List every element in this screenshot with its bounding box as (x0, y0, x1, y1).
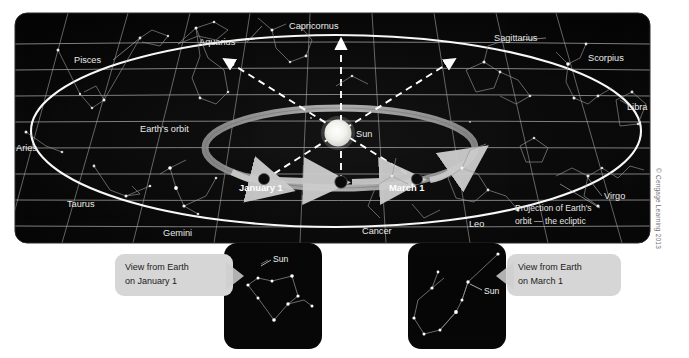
label-march-1: March 1 (389, 182, 424, 193)
label-virgo: Virgo (604, 191, 625, 201)
copyright-notice: © Cengage Learning 2013 (655, 168, 662, 249)
label-january-1: January 1 (239, 182, 283, 193)
inset-right-panel (408, 243, 506, 349)
bubble-left-line1: View from Earth (125, 262, 189, 272)
label-cancer: Cancer (362, 226, 392, 236)
figure-root: Pisces Aquarius Capricornus Sagittarius … (0, 0, 689, 358)
label-earth-orbit: Earth's orbit (140, 124, 189, 134)
label-capricornus: Capricornus (289, 21, 339, 31)
label-aries: Aries (16, 143, 37, 153)
sun-body (321, 116, 355, 150)
label-taurus: Taurus (67, 199, 95, 209)
inset-left-sun-label: Sun (273, 254, 289, 264)
label-ecliptic-line2: orbit — the ecliptic (515, 216, 586, 226)
bubble-right-line1: View from Earth (518, 262, 582, 272)
label-ecliptic-line1: Projection of Earth's (515, 203, 592, 213)
label-libra: Libra (627, 102, 648, 112)
label-gemini: Gemini (163, 228, 192, 238)
bubble-left (115, 254, 244, 296)
label-aquarius: Aquarius (199, 37, 236, 47)
label-pisces: Pisces (74, 55, 101, 65)
label-sun: Sun (356, 129, 372, 139)
bubble-right-line2: on March 1 (518, 276, 563, 286)
diagram-canvas: Pisces Aquarius Capricornus Sagittarius … (0, 0, 689, 358)
inset-right-sun-label: Sun (484, 286, 500, 296)
label-leo: Leo (469, 219, 484, 229)
bubble-left-line2: on January 1 (125, 276, 177, 286)
label-scorpius: Scorpius (588, 53, 624, 63)
bubble-right (496, 254, 621, 296)
label-sagittarius: Sagittarius (494, 33, 538, 43)
